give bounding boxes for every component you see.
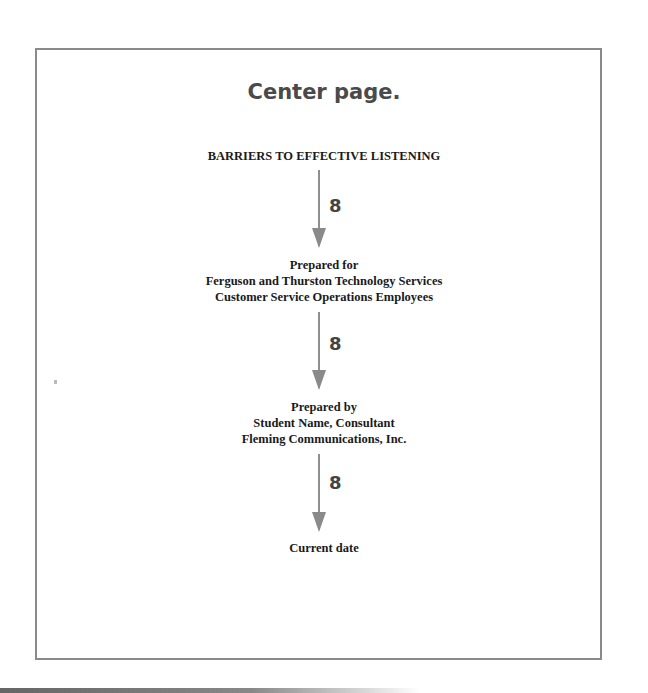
prepared-by-block: Prepared by Student Name, Consultant Fle… — [0, 399, 648, 447]
instruction-heading: Center page. — [0, 80, 648, 104]
current-date: Current date — [0, 540, 648, 556]
spacing-annotation: 8 — [329, 333, 342, 354]
prepared-for-block: Prepared for Ferguson and Thurston Techn… — [0, 257, 648, 305]
prepared-by-line2: Fleming Communications, Inc. — [0, 431, 648, 447]
scan-speck — [54, 380, 57, 384]
prepared-for-line2: Customer Service Operations Employees — [0, 289, 648, 305]
prepared-for-line1: Ferguson and Thurston Technology Service… — [0, 273, 648, 289]
spacing-annotation: 8 — [329, 195, 342, 216]
prepared-for-label: Prepared for — [0, 257, 648, 273]
prepared-by-line1: Student Name, Consultant — [0, 415, 648, 431]
down-arrow-icon — [318, 170, 320, 246]
down-arrow-icon — [318, 454, 320, 530]
down-arrow-icon — [318, 312, 320, 388]
report-title: BARRIERS TO EFFECTIVE LISTENING — [0, 148, 648, 164]
spacing-annotation: 8 — [329, 472, 342, 493]
prepared-by-label: Prepared by — [0, 399, 648, 415]
bottom-edge-bar — [0, 688, 420, 693]
